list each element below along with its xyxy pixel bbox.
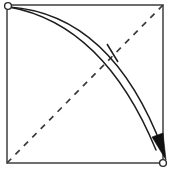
start-corner-dot — [5, 3, 12, 10]
fold-diagram-svg: Fold corner to opposite corner — [0, 0, 171, 174]
end-corner-dot — [160, 160, 167, 167]
fold-diagram-container: Fold corner to opposite corner — [0, 0, 171, 174]
